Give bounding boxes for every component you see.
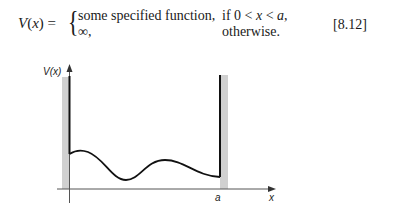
left-wall-band [62,77,69,189]
potential-curve [70,151,221,180]
case-2-value: ∞, [78,24,91,40]
equation-number: [8.12] [333,17,367,33]
case-1-condition: if 0 < x < a, [222,8,288,24]
equation-lhs: V(x) = [18,15,56,32]
potential-well-figure: V(x) a x [0,55,399,211]
right-wall-band [220,75,228,189]
wall-position-label: a [215,192,221,203]
lhs-argument: (x) [27,15,44,31]
case-1-value: some specified function, [78,8,215,24]
cases-brace: { [68,6,79,36]
x-axis-label: x [268,192,275,203]
lhs-equals: = [44,15,56,31]
case-2-condition: otherwise. [222,24,280,40]
lhs-function-name: V [18,15,27,31]
y-axis-label: V(x) [43,66,61,77]
equation-block: V(x) = { some specified function, ∞, if … [0,0,399,50]
y-axis-arrow-icon [67,64,73,72]
